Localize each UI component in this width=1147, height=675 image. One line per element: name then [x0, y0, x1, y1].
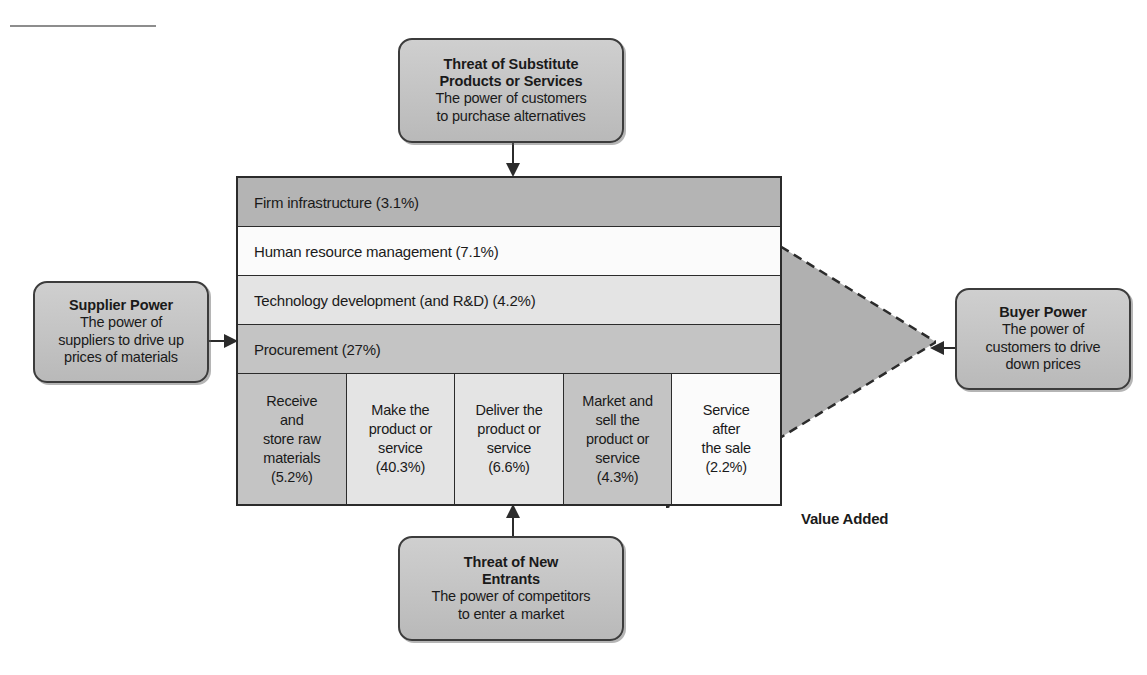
force-desc-line1: The power of competitors	[432, 588, 591, 606]
primary-cell-label: Deliver theproduct orservice(6.6%)	[475, 401, 542, 477]
arrowhead-left-icon	[930, 341, 944, 355]
support-row-procurement[interactable]: Procurement (27%)	[238, 325, 780, 374]
force-box-threat-of-substitutes[interactable]: Threat of Substitute Products or Service…	[398, 38, 624, 143]
primary-cell-outbound-logistics[interactable]: Deliver theproduct orservice(6.6%)	[455, 374, 564, 504]
force-title-line1: Threat of Substitute	[444, 56, 579, 73]
force-desc-line3: down prices	[1005, 356, 1080, 374]
arrowhead-down-icon	[506, 163, 520, 177]
primary-cell-inbound-logistics[interactable]: Receiveandstore rawmaterials(5.2%)	[238, 374, 347, 504]
force-title-line1: Threat of New	[464, 554, 559, 571]
force-title-line1: Buyer Power	[999, 304, 1087, 321]
force-desc-line3: prices of materials	[64, 349, 178, 367]
primary-cell-marketing-and-sales[interactable]: Market andsell theproduct orservice(4.3%…	[564, 374, 673, 504]
support-row-human-resource-management[interactable]: Human resource management (7.1%)	[238, 227, 780, 276]
value-chain-diagram: Firm infrastructure (3.1%) Human resourc…	[236, 176, 936, 508]
support-row-firm-infrastructure[interactable]: Firm infrastructure (3.1%)	[238, 178, 780, 227]
primary-cell-service[interactable]: Serviceafterthe sale(2.2%)	[672, 374, 780, 504]
force-box-supplier-power[interactable]: Supplier Power The power of suppliers to…	[33, 281, 209, 383]
force-desc-line2: customers to drive	[986, 339, 1101, 357]
arrowhead-up-icon	[506, 504, 520, 518]
force-desc-line1: The power of	[1002, 321, 1084, 339]
primary-cell-label: Receiveandstore rawmaterials(5.2%)	[263, 392, 321, 487]
force-title-line1: Supplier Power	[69, 297, 173, 314]
primary-activities-row: Receiveandstore rawmaterials(5.2%) Make …	[238, 374, 780, 504]
primary-cell-label: Make theproduct orservice(40.3%)	[369, 401, 432, 477]
force-title-line2: Products or Services	[439, 73, 582, 90]
primary-cell-label: Market andsell theproduct orservice(4.3%…	[582, 392, 653, 487]
support-row-label: Technology development (and R&D) (4.2%)	[254, 292, 536, 309]
primary-cell-label: Serviceafterthe sale(2.2%)	[702, 401, 751, 477]
force-desc-line1: The power of customers	[435, 90, 586, 108]
support-row-label: Firm infrastructure (3.1%)	[254, 194, 419, 211]
page-rule-divider	[10, 25, 156, 27]
value-chain-body: Firm infrastructure (3.1%) Human resourc…	[236, 176, 782, 506]
force-desc-line2: suppliers to drive up	[58, 332, 184, 350]
scan-artifact-text	[70, 0, 300, 7]
support-row-label: Procurement (27%)	[254, 341, 381, 358]
value-added-label: Value Added	[801, 510, 888, 527]
support-row-label: Human resource management (7.1%)	[254, 243, 499, 260]
arrowhead-right-icon	[224, 334, 238, 348]
force-desc-line1: The power of	[80, 314, 162, 332]
force-box-threat-of-new-entrants[interactable]: Threat of New Entrants The power of comp…	[398, 536, 624, 641]
primary-cell-operations[interactable]: Make theproduct orservice(40.3%)	[347, 374, 456, 504]
force-title-line2: Entrants	[482, 571, 540, 588]
force-desc-line2: to purchase alternatives	[436, 108, 585, 126]
force-desc-line2: to enter a market	[458, 606, 564, 624]
force-box-buyer-power[interactable]: Buyer Power The power of customers to dr…	[955, 288, 1131, 390]
support-row-technology-development[interactable]: Technology development (and R&D) (4.2%)	[238, 276, 780, 325]
